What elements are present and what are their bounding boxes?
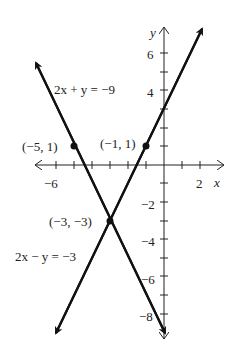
point-label-neg1-1: (−1, 1) <box>100 136 136 151</box>
point-neg5-1 <box>71 143 78 150</box>
tick-label-y-neg2: −2 <box>141 197 155 212</box>
graph: y x 6 4 −2 −4 −6 −8 −6 2 2x + y = −9 2x … <box>0 0 234 357</box>
point-neg1-1 <box>143 143 150 150</box>
equation-label-2: 2x − y = −3 <box>15 249 76 264</box>
tick-label-x-2: 2 <box>196 176 203 191</box>
equation-label-1: 2x + y = −9 <box>54 82 115 97</box>
y-axis-label: y <box>148 25 156 40</box>
tick-label-y-neg6: −6 <box>141 272 155 287</box>
x-axis <box>35 161 224 169</box>
tick-label-y-neg4: −4 <box>141 234 155 249</box>
tick-label-x-neg6: −6 <box>44 176 58 191</box>
tick-label-y-neg8: −8 <box>139 309 153 324</box>
point-label-neg3-neg3: (−3, −3) <box>49 214 92 229</box>
point-neg3-neg3 <box>107 218 114 225</box>
tick-label-y-6: 6 <box>147 47 154 62</box>
point-label-neg5-1: (−5, 1) <box>22 139 58 154</box>
tick-label-y-4: 4 <box>147 85 154 100</box>
y-axis <box>160 27 168 339</box>
x-axis-label: x <box>213 175 220 190</box>
line-2x-minus-y-eq-neg3 <box>56 29 202 333</box>
